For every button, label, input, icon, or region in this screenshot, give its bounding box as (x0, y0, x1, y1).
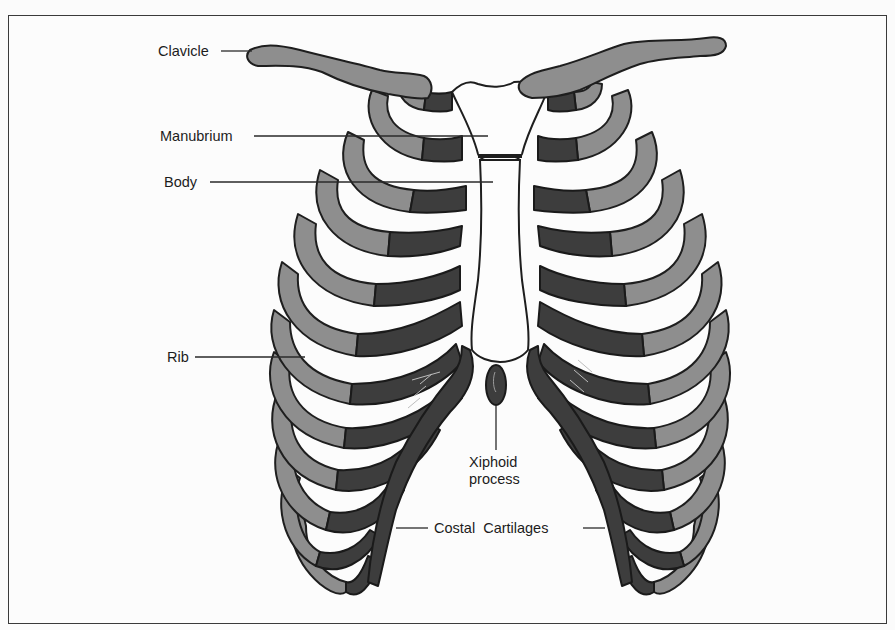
rib-cage-diagram: Clavicle Manubrium Body Rib Xiphoid proc… (0, 0, 895, 630)
sternal-body-shape (471, 160, 528, 362)
body-label: Body (164, 174, 198, 190)
right-clavicle (519, 37, 726, 98)
manubrium-label: Manubrium (160, 128, 233, 144)
xiphoid-shape (486, 365, 506, 405)
clavicle-label: Clavicle (158, 43, 209, 59)
right-ribs (534, 82, 730, 594)
xiphoid-label-line2: process (469, 471, 520, 487)
costal-cartilages-label: Costal Cartilages (434, 520, 548, 536)
left-clavicle (247, 46, 431, 99)
xiphoid-label-line1: Xiphoid (469, 454, 517, 470)
left-ribs (270, 82, 466, 594)
rib-label: Rib (167, 349, 189, 365)
